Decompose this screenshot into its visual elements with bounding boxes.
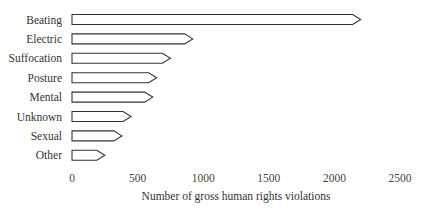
category-label: Beating [26, 14, 62, 27]
x-tick-label: 1000 [192, 172, 215, 184]
category-labels: BeatingElectricSuffocationPostureMentalU… [9, 14, 63, 162]
x-tick-label: 1500 [257, 172, 280, 184]
category-label: Mental [29, 91, 62, 103]
bar-beating [72, 15, 361, 25]
bars-group [72, 15, 361, 161]
category-label: Posture [28, 72, 63, 84]
x-tick-label: 2000 [323, 172, 346, 184]
x-axis-ticks: 05001000150020002500 [69, 172, 412, 184]
x-axis-label: Number of gross human rights violations [142, 190, 331, 203]
x-tick-label: 2500 [389, 172, 412, 184]
x-tick-label: 0 [69, 172, 75, 184]
bar-suffocation [72, 53, 170, 63]
bar-sexual [72, 131, 122, 141]
bar-electric [72, 34, 193, 44]
bar-posture [72, 73, 157, 83]
bar-other [72, 150, 105, 160]
x-tick-label: 500 [129, 172, 147, 184]
category-label: Suffocation [9, 52, 63, 64]
bar-unknown [72, 112, 131, 122]
category-label: Sexual [31, 130, 62, 142]
category-label: Other [36, 149, 62, 161]
bar-mental [72, 92, 153, 102]
category-label: Unknown [17, 111, 63, 123]
horizontal-bar-chart: BeatingElectricSuffocationPostureMentalU… [0, 0, 421, 211]
category-label: Electric [26, 33, 62, 45]
